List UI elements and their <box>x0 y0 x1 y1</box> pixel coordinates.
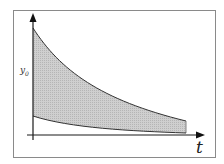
y0-label: y0 <box>20 65 29 77</box>
y-axis-arrow-icon <box>30 13 37 22</box>
diagram-canvas: y0 t <box>0 0 224 164</box>
plot-svg <box>0 0 224 164</box>
t-axis-label: t <box>196 137 203 157</box>
shaded-region <box>33 28 186 133</box>
